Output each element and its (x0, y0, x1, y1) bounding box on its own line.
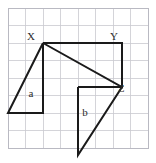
vertex-label-x: X (27, 30, 35, 42)
figure-container: X Y Z a b (0, 0, 156, 163)
geometry-figure: X Y Z a b (0, 0, 156, 163)
vertex-label-z: Z (118, 82, 125, 94)
region-label-b: b (82, 106, 88, 118)
vertex-label-y: Y (110, 30, 118, 42)
region-label-a: a (29, 87, 34, 99)
